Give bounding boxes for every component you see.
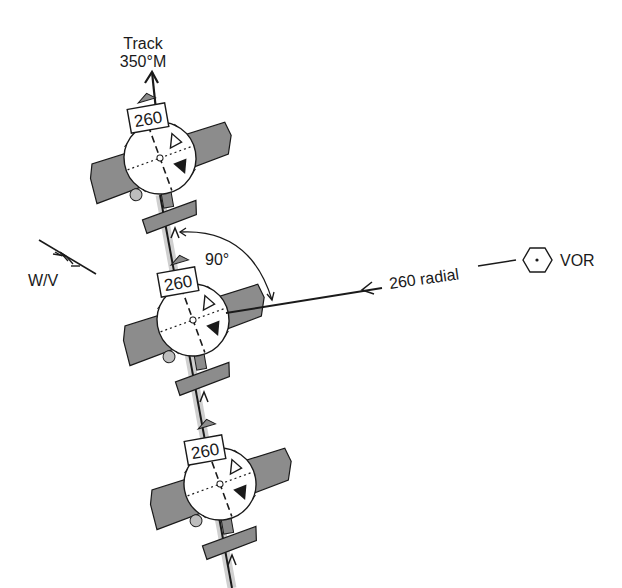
vor-label: VOR <box>560 252 595 269</box>
wind-label: W/V <box>28 272 59 289</box>
track-arrow-mark-icon <box>200 392 208 402</box>
wind-arrow-icon <box>39 240 96 274</box>
aircraft-bottom <box>138 406 306 567</box>
track-arrow-mark-icon <box>171 228 179 238</box>
track-label: Track <box>123 35 163 52</box>
vor-radial-diagram: Track 350°M 260 260 260 90° 260 radial V… <box>0 0 622 588</box>
vor-station-icon <box>523 248 552 272</box>
track-value-label: 350°M <box>120 53 166 70</box>
radial-line-segment <box>478 260 516 266</box>
angle-label: 90° <box>205 251 229 268</box>
radial-label: 260 radial <box>388 265 460 292</box>
radial-arrow-icon <box>362 282 374 294</box>
